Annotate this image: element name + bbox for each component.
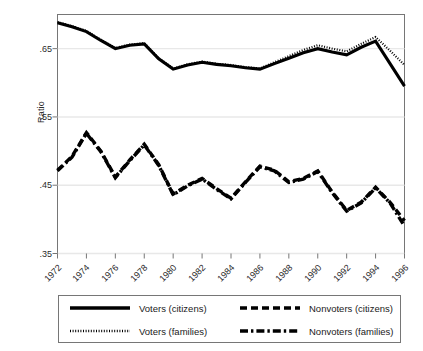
chart-figure: Ratio .35.45.55.65 197219741976197819801… (0, 0, 423, 351)
legend-entry-voters-citizens: Voters (citizens) (59, 297, 239, 319)
legend-entry-nonvoters-families: Nonvoters (families) (239, 320, 402, 342)
legend-entry-voters-families: Voters (families) (59, 320, 239, 342)
legend-label: Nonvoters (families) (309, 326, 393, 337)
legend-key-dotted-icon (69, 325, 131, 337)
chart-legend: Voters (citizens) Nonvoters (citizens) V… (58, 295, 401, 343)
legend-row-1: Voters (citizens) Nonvoters (citizens) (59, 297, 402, 319)
legend-label: Voters (citizens) (139, 303, 207, 314)
legend-entry-nonvoters-citizens: Nonvoters (citizens) (239, 297, 402, 319)
legend-row-2: Voters (families) Nonvoters (families) (59, 320, 402, 342)
legend-label: Nonvoters (citizens) (309, 303, 393, 314)
legend-key-dashed-icon (239, 302, 301, 314)
legend-key-dashdot-icon (239, 325, 301, 337)
legend-key-solid-icon (69, 302, 131, 314)
legend-label: Voters (families) (139, 326, 207, 337)
